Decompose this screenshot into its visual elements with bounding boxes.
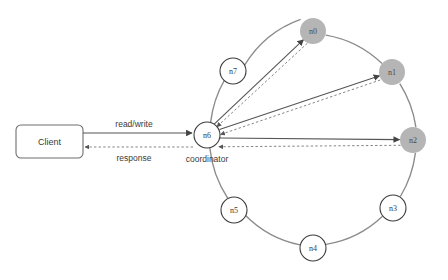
client-node: Client	[16, 125, 83, 158]
ring-arc-n2-n3	[400, 153, 415, 197]
edge-n0-to-n6	[217, 43, 307, 127]
node-n1[interactable]: n1	[379, 59, 405, 85]
client-label: Client	[38, 137, 62, 147]
node-label-n3: n3	[389, 204, 397, 213]
node-label-n0: n0	[309, 27, 317, 36]
node-n2[interactable]: n2	[400, 127, 426, 153]
node-label-n2: n2	[409, 136, 417, 145]
node-label-n7: n7	[229, 67, 237, 76]
edge-n2-to-n6	[219, 145, 401, 147]
node-label-n5: n5	[230, 206, 238, 215]
ring-arc-n7-n0	[245, 19, 301, 65]
edge-n6-to-n2	[220, 138, 399, 140]
node-n3[interactable]: n3	[380, 195, 406, 221]
node-label-n6: n6	[203, 131, 211, 140]
node-n0[interactable]: n0	[300, 18, 326, 44]
ring-diagram: Client read/write response n7 n	[0, 0, 448, 280]
edge-n1-to-n6	[221, 80, 381, 135]
edge-n6-to-n1	[220, 76, 380, 130]
node-label-n4: n4	[309, 244, 317, 253]
ring-arc-n0-n1	[326, 35, 382, 64]
node-n4[interactable]: n4	[300, 235, 326, 261]
client-coordinator-edges: read/write response	[83, 119, 193, 163]
node-label-n1: n1	[388, 68, 396, 77]
edge-label-response: response	[117, 153, 152, 163]
node-n6-coordinator[interactable]: n6	[194, 122, 220, 148]
edge-label-read-write: read/write	[115, 119, 153, 129]
ring-arc-n4-n5	[245, 215, 300, 245]
coordinator-caption: coordinator	[186, 154, 229, 164]
ring-arc-n1-n2	[400, 84, 416, 127]
ring-arc-n3-n4	[326, 216, 383, 244]
diagram-canvas: Client read/write response n7 n	[0, 0, 448, 280]
node-n5[interactable]: n5	[221, 197, 247, 223]
node-n7[interactable]: n7	[220, 58, 246, 84]
